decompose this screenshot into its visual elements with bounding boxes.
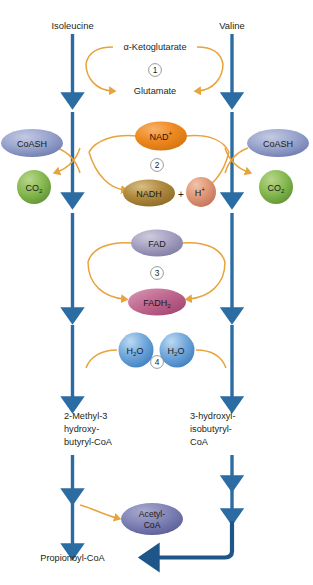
label-valine: Valine: [219, 20, 244, 31]
pathway-diagram: Isoleucine Valine α-Ketoglutarate Glutam…: [0, 0, 313, 585]
step3-left-fad-curve-in: [88, 243, 132, 262]
step-number-4: 4: [155, 357, 160, 367]
label-co2-right-main: CO: [268, 183, 282, 193]
step1-right-curve-out: [198, 64, 223, 91]
label-fadh2-main: FADH: [143, 298, 167, 308]
label-co2-left-main: CO: [26, 183, 40, 193]
step3-right-fad-curve-in: [182, 243, 225, 262]
label-intermediate-right-line2: isobutyryl-: [190, 424, 232, 434]
step2-right-nad-curve-in: [186, 136, 229, 152]
acetyl-coa-branch-curve: [80, 505, 117, 518]
label-hplus-sup: +: [201, 186, 205, 193]
step-number-3: 3: [155, 268, 160, 278]
step2-left-coash-curve: [57, 148, 80, 173]
label-acetyl-coa-line2: CoA: [144, 520, 161, 530]
label-alpha-ketoglutarate: α-Ketoglutarate: [123, 42, 186, 52]
step3-left-fadh2-curve-out: [88, 262, 124, 299]
pathway-svg: Isoleucine Valine α-Ketoglutarate Glutam…: [0, 0, 313, 585]
step1-left-curve-in: [86, 47, 113, 64]
step1-left-curve-out: [86, 64, 112, 91]
step4-left-h2o-curve: [86, 350, 117, 368]
label-fad: FAD: [148, 239, 166, 249]
label-propionoyl-coa: Propionoyl-CoA: [40, 553, 105, 563]
step-number-1: 1: [153, 65, 158, 75]
label-fadh2-sub: 2: [167, 302, 171, 309]
step2-left-nadh-curve-out: [89, 152, 124, 190]
step1-right-curve-in: [197, 47, 223, 64]
step2-left-co2-curve: [57, 148, 80, 172]
label-intermediate-right-line3: CoA: [190, 437, 209, 447]
step2-left-nad-curve-in: [89, 136, 137, 152]
label-coash-right: CoASH: [263, 139, 293, 149]
label-h2o-left-o: O: [136, 346, 143, 356]
label-intermediate-left-line1: 2-Methyl-3: [64, 411, 107, 421]
label-glutamate: Glutamate: [134, 86, 176, 96]
label-plus-sign: +: [178, 189, 184, 200]
label-co2-left-sub: 2: [39, 187, 43, 194]
label-nad-main: NAD: [150, 132, 170, 142]
label-isoleucine: Isoleucine: [51, 20, 93, 31]
label-intermediate-right-line1: 3-hydroxyl-: [190, 411, 235, 421]
label-co2-right-sub: 2: [281, 187, 285, 194]
label-acetyl-coa-line1: Acetyl-: [139, 509, 165, 519]
node-acetyl-coa: [121, 503, 183, 535]
step4-right-h2o-curve: [196, 350, 226, 368]
label-nadh: NADH: [136, 189, 162, 199]
label-h2o-right-o: O: [177, 346, 184, 356]
label-fadh2: FADH2: [143, 298, 171, 309]
label-coash-left: CoASH: [17, 139, 47, 149]
label-nad-sup: +: [169, 130, 173, 137]
step3-right-fadh2-curve-out: [189, 262, 225, 299]
label-intermediate-left-line2: hydroxy-: [64, 424, 99, 434]
step-number-2: 2: [155, 160, 160, 170]
label-intermediate-left-line3: butyryl-CoA: [64, 437, 113, 447]
